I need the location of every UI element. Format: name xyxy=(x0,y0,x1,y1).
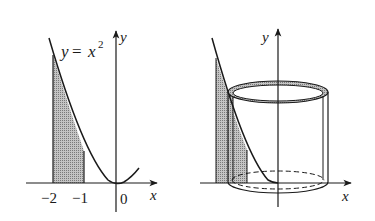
tick-label-zero: 0 xyxy=(120,191,128,207)
x-axis-label: x xyxy=(341,188,349,204)
shaded-region xyxy=(53,55,84,183)
diagram-canvas: y = x 2 y x −2 −1 0 y xyxy=(0,0,375,221)
equation-base: x xyxy=(87,42,96,61)
x-axis-label: x xyxy=(149,187,157,203)
tick-label-minus-2: −2 xyxy=(41,190,57,206)
equation-exponent: 2 xyxy=(98,38,104,50)
equation-lhs: y xyxy=(59,42,69,61)
left-figure: y = x 2 y x −2 −1 0 xyxy=(26,29,157,212)
y-axis-label: y xyxy=(260,29,269,45)
y-axis-label: y xyxy=(118,29,127,45)
shaded-region-shell-strip xyxy=(233,112,247,183)
equation-eq: = xyxy=(72,42,82,61)
shaded-region-gap xyxy=(228,96,233,183)
tick-label-minus-1: −1 xyxy=(72,190,88,206)
right-figure: y x xyxy=(200,29,351,207)
shaded-region-left-strip xyxy=(216,58,228,183)
